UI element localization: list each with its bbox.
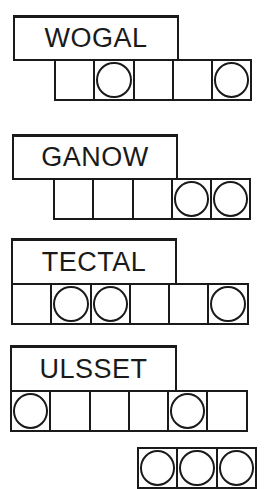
scrambled-word-text: ULSSET [39, 354, 147, 385]
letter-cell[interactable] [168, 283, 209, 325]
circled-letter-cell[interactable] [171, 178, 212, 220]
circle-marker-icon [53, 286, 88, 322]
letter-cell[interactable] [89, 390, 130, 432]
letter-cell[interactable] [172, 59, 213, 101]
circled-letter-cell[interactable] [207, 283, 248, 325]
circle-marker-icon [179, 450, 214, 486]
letter-cell[interactable] [11, 283, 52, 325]
circled-letter-cell[interactable] [137, 447, 178, 489]
answer-cells-4 [10, 390, 248, 432]
letter-cell[interactable] [53, 178, 94, 220]
answer-cells-2 [53, 178, 251, 220]
circled-letter-cell[interactable] [90, 283, 131, 325]
circle-marker-icon [13, 393, 48, 429]
circled-letter-cell[interactable] [93, 59, 134, 101]
scrambled-word-text: WOGAL [44, 23, 147, 54]
circle-marker-icon [174, 181, 209, 217]
circled-letter-cell[interactable] [211, 59, 252, 101]
circle-marker-icon [140, 450, 175, 486]
circle-marker-icon [213, 181, 248, 217]
letter-cell[interactable] [54, 59, 95, 101]
scrambled-word-2: GANOW [12, 134, 178, 180]
scrambled-word-4: ULSSET [10, 345, 177, 392]
letter-cell[interactable] [132, 178, 173, 220]
letter-cell[interactable] [133, 59, 174, 101]
answer-cells-3 [11, 283, 249, 325]
scrambled-word-3: TECTAL [11, 238, 177, 285]
scrambled-word-text: TECTAL [42, 247, 147, 278]
circled-letter-cell[interactable] [176, 447, 217, 489]
final-answer-cells [137, 447, 257, 489]
letter-cell[interactable] [129, 283, 170, 325]
circle-marker-icon [219, 450, 254, 486]
circled-letter-cell[interactable] [10, 390, 51, 432]
letter-cell[interactable] [92, 178, 133, 220]
circled-letter-cell[interactable] [167, 390, 208, 432]
circle-marker-icon [93, 286, 128, 322]
scrambled-word-1: WOGAL [13, 15, 179, 61]
circle-marker-icon [96, 62, 131, 98]
circle-marker-icon [214, 62, 249, 98]
letter-cell[interactable] [128, 390, 169, 432]
circled-letter-cell[interactable] [50, 283, 91, 325]
letter-cell[interactable] [49, 390, 90, 432]
circled-letter-cell[interactable] [216, 447, 257, 489]
scrambled-word-text: GANOW [41, 142, 149, 173]
letter-cell[interactable] [206, 390, 247, 432]
circle-marker-icon [210, 286, 245, 322]
circle-marker-icon [170, 393, 205, 429]
circled-letter-cell[interactable] [210, 178, 251, 220]
answer-cells-1 [54, 59, 252, 101]
